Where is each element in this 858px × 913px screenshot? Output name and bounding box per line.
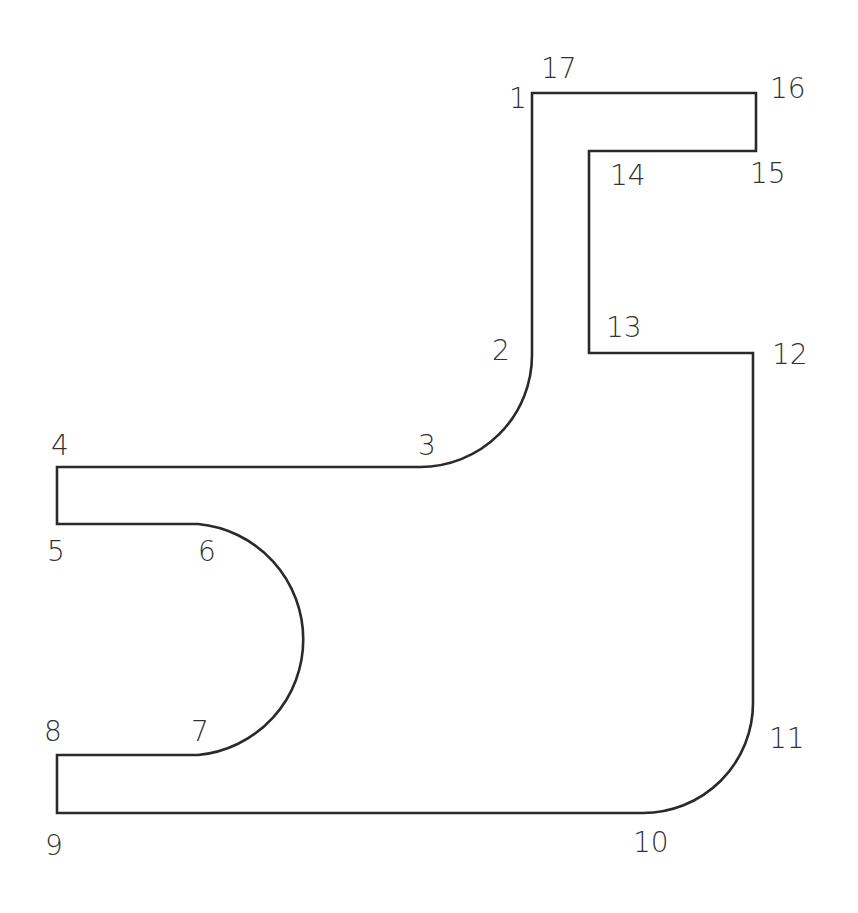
vertex-label-14: 14 <box>610 159 646 192</box>
vertex-label-10: 10 <box>633 826 669 859</box>
vertex-label-5: 5 <box>47 535 65 568</box>
vertex-label-4: 4 <box>51 429 69 462</box>
vertex-label-15: 15 <box>750 157 786 190</box>
vertex-label-8: 8 <box>44 715 62 748</box>
vertex-label-6: 6 <box>198 535 216 568</box>
vertex-label-2: 2 <box>492 334 510 367</box>
vertex-labels: 1234567891011121314151617 <box>44 52 808 862</box>
vertex-label-11: 11 <box>769 722 805 755</box>
vertex-label-17: 17 <box>541 52 577 85</box>
profile-outline <box>57 93 756 813</box>
vertex-label-7: 7 <box>191 715 209 748</box>
vertex-label-12: 12 <box>772 338 808 371</box>
vertex-label-3: 3 <box>418 429 436 462</box>
vertex-label-9: 9 <box>45 829 63 862</box>
vertex-label-1: 1 <box>509 82 527 115</box>
profile-drawing: 1234567891011121314151617 <box>0 0 858 913</box>
vertex-label-16: 16 <box>770 72 806 105</box>
vertex-label-13: 13 <box>606 311 642 344</box>
